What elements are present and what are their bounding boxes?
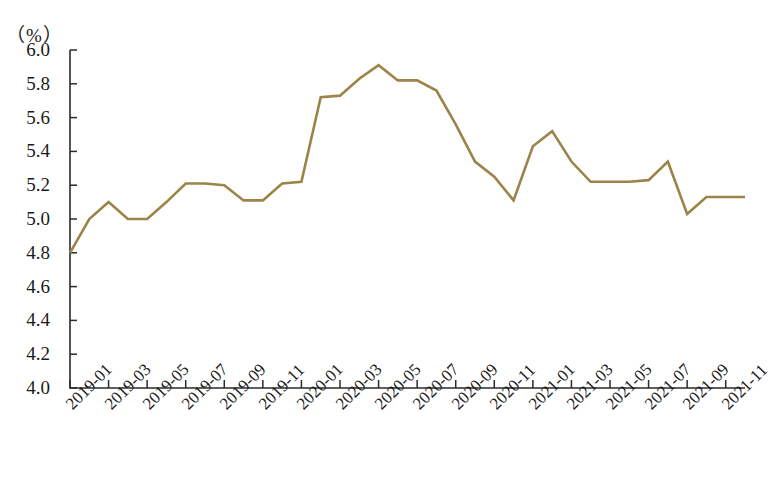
y-tick-label: 6.0 [6, 40, 50, 59]
series-line-unemployment [70, 65, 745, 253]
y-tick-label: 4.6 [6, 277, 50, 296]
y-tick-label: 5.4 [6, 141, 50, 160]
axes-group [70, 50, 745, 388]
y-tick-label: 5.6 [6, 108, 50, 127]
y-tick-label: 4.8 [6, 243, 50, 262]
y-tick-label: 5.8 [6, 74, 50, 93]
y-tick-label: 4.2 [6, 344, 50, 363]
y-tick-label: 5.2 [6, 175, 50, 194]
y-tick-label: 4.0 [6, 378, 50, 397]
y-tick-label: 5.0 [6, 209, 50, 228]
y-tick-label: 4.4 [6, 310, 50, 329]
y-axis-ticks [70, 50, 77, 388]
axis-frame [70, 50, 745, 388]
